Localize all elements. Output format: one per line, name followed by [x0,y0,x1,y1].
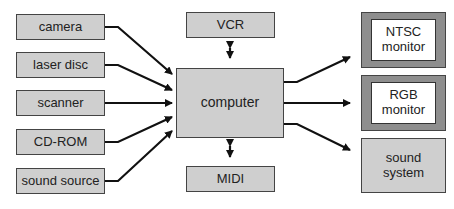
input-label: camera [39,20,82,34]
output-label: RGB monitor [382,88,425,117]
output-rgb-monitor: RGB monitor [361,75,446,131]
input-sound-source: sound source [16,168,105,194]
input-label: scanner [37,96,83,110]
input-laser-disc: laser disc [16,52,105,78]
output-sound-system: sound system [361,138,446,193]
output-label: NTSC monitor [382,25,425,54]
arrow-computer-to-sound-system [284,124,350,150]
input-camera: camera [16,14,105,40]
output-ntsc-monitor: NTSC monitor [361,12,446,68]
input-cd-rom: CD-ROM [16,129,105,155]
device-vcr: VCR [186,12,275,38]
arrow-cdrom-to-computer [105,117,172,142]
device-label: MIDI [217,172,244,186]
device-midi: MIDI [186,166,275,192]
monitor-screen: NTSC monitor [371,19,436,61]
monitor-screen: RGB monitor [371,82,436,124]
computer-node: computer [176,68,284,138]
input-label: sound source [21,174,99,188]
arrow-laserdisc-to-computer [105,65,172,90]
arrow-soundsource-to-computer [105,131,172,181]
input-label: CD-ROM [34,135,87,149]
output-label: sound system [383,151,424,180]
arrow-computer-to-ntsc [284,57,350,82]
computer-label: computer [201,95,259,110]
arrow-camera-to-computer [105,27,172,74]
input-label: laser disc [33,58,88,72]
device-label: VCR [217,18,244,32]
input-scanner: scanner [16,90,105,116]
